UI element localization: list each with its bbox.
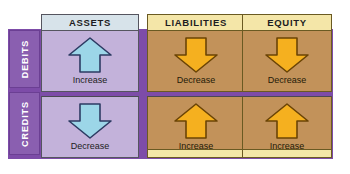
cell-debits-assets: Increase — [41, 31, 139, 92]
row-tab-credits: CREDITS — [9, 92, 40, 155]
column-assets: ASSETS Increase Decrease — [41, 14, 139, 158]
column-header-liabilities: LIABILITIES — [147, 14, 245, 31]
arrow-up-icon — [264, 102, 310, 140]
cell-credits-liabilities: Increase — [147, 96, 245, 158]
arrow-down-icon — [67, 102, 113, 140]
arrow-up-icon — [173, 102, 219, 140]
debits-credits-diagram: DEBITS CREDITS ASSETS Increase — [0, 0, 350, 174]
cell-caption: Increase — [73, 75, 108, 86]
arrow-down-icon — [264, 36, 310, 74]
cell-debits-equity: Decrease — [242, 31, 332, 92]
cell-caption: Decrease — [177, 75, 216, 86]
arrow-down-icon — [173, 36, 219, 74]
cell-caption: Decrease — [71, 141, 110, 152]
column-header-equity: EQUITY — [242, 14, 332, 31]
cell-credits-assets: Decrease — [41, 96, 139, 158]
cell-credits-equity: Increase — [242, 96, 332, 158]
arrow-up-icon — [67, 36, 113, 74]
column-footer-strip — [243, 149, 331, 157]
column-footer-strip — [148, 149, 244, 157]
column-header-assets: ASSETS — [41, 14, 139, 31]
cell-debits-liabilities: Decrease — [147, 31, 245, 92]
row-tab-debits-label: DEBITS — [20, 40, 30, 78]
cell-caption: Decrease — [268, 75, 307, 86]
column-liabilities: LIABILITIES Decrease Increase — [147, 14, 245, 158]
row-tab-credits-label: CREDITS — [20, 101, 30, 147]
column-equity: EQUITY Decrease Increase — [242, 14, 332, 158]
row-tab-debits: DEBITS — [9, 30, 40, 88]
